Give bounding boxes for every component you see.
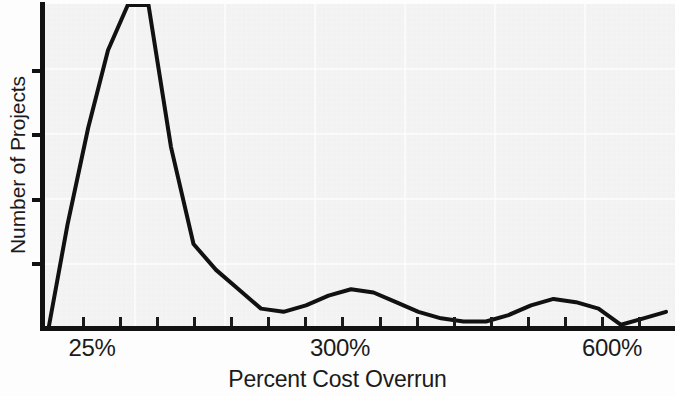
x-axis-tick-label-2: 600%: [582, 334, 642, 362]
x-axis-tick: [416, 317, 419, 326]
x-axis-tick-label-0: 25%: [68, 334, 115, 362]
y-axis-tick: [32, 262, 41, 266]
x-axis-tick: [82, 317, 85, 326]
x-axis-tick: [564, 317, 567, 326]
x-axis-tick: [490, 317, 493, 326]
x-axis-tick: [341, 317, 344, 326]
data-line-series: [45, 4, 675, 329]
x-axis-line: [40, 326, 675, 331]
y-axis-title-text: Number of Projects: [6, 76, 30, 254]
x-axis-tick: [193, 317, 196, 326]
x-axis-title: Percent Cost Overrun: [0, 366, 675, 393]
x-axis-tick: [230, 317, 233, 326]
x-axis-tick: [119, 317, 122, 326]
y-axis-tick: [32, 198, 41, 202]
x-axis-tick-label-1: 300%: [310, 334, 370, 362]
x-axis-tick: [379, 317, 382, 326]
chart-figure: Number of Projects 25%300%600% Percent C…: [0, 0, 675, 396]
x-axis-tick: [156, 317, 159, 326]
x-axis-tick: [638, 317, 641, 326]
x-axis-tick: [267, 317, 270, 326]
y-axis-title: Number of Projects: [0, 0, 36, 330]
y-axis-tick: [32, 69, 41, 73]
y-axis-line: [40, 2, 45, 331]
y-axis-tick: [32, 133, 41, 137]
series-path-number-of-projects: [49, 5, 666, 328]
x-axis-tick: [453, 317, 456, 326]
x-axis-tick: [527, 317, 530, 326]
x-axis-tick: [304, 317, 307, 326]
plot-area: [45, 4, 675, 329]
x-axis-tick: [601, 317, 604, 326]
